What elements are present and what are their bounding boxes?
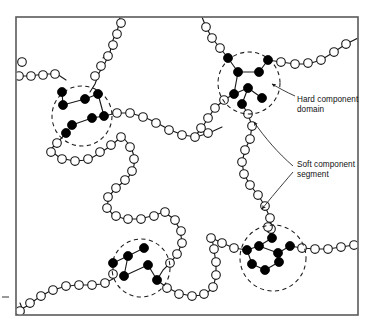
soft-component-segment-line1: Soft component (297, 160, 356, 169)
hard-component-domain-line2: domain (297, 105, 325, 114)
polymer-microstructure-diagram: Hard component domain Soft component seg… (0, 0, 377, 329)
hard-component-domain-line1: Hard component (297, 95, 359, 104)
figure-root: Hard component domain Soft component seg… (0, 0, 377, 329)
soft-component-segment-line2: segment (297, 170, 329, 179)
